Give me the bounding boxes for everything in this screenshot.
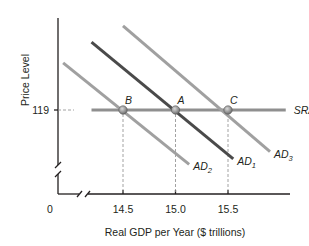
curve-label-subscript: 3 [289, 154, 294, 163]
equilibrium-point-c [224, 106, 232, 114]
curve-label-main: AD [192, 160, 208, 172]
curve-label-subscript: 2 [207, 166, 213, 175]
equilibrium-point-label-b: B [125, 94, 132, 106]
curve-ad3 [123, 26, 270, 152]
curve-label-ad3: AD3 [273, 148, 294, 163]
y-tick-label-119: 119 [32, 104, 49, 116]
x-tick-label-15.5: 15.5 [218, 203, 239, 215]
x-tick-label-15.0: 15.0 [165, 203, 186, 215]
equilibrium-point-label-c: C [230, 94, 238, 106]
curve-label-main: AD [273, 148, 289, 160]
curve-label-main: AD [236, 155, 252, 167]
equilibrium-point-b [119, 106, 127, 114]
curve-label-subscript: 1 [252, 161, 256, 170]
y-axis-title: Price Level [19, 54, 31, 106]
equilibrium-point-label-a: A [177, 94, 185, 106]
x-axis-title: Real GDP per Year ($ trillions) [105, 226, 245, 238]
x-tick-label-0: 0 [47, 203, 53, 215]
curves [63, 26, 286, 164]
curve-label-sras: SRAS [294, 104, 309, 116]
ad-sras-chart: 119 0 14.515.015.5 BAC SRASAD1AD2AD3 Pri… [0, 0, 309, 246]
curve-ad2 [63, 63, 189, 164]
equilibrium-point-a [171, 106, 179, 114]
curve-label-main: SRAS [294, 104, 309, 116]
curve-label-ad2: AD2 [192, 160, 213, 175]
x-tick-label-14.5: 14.5 [113, 203, 134, 215]
curve-label-ad1: AD1 [236, 155, 256, 170]
